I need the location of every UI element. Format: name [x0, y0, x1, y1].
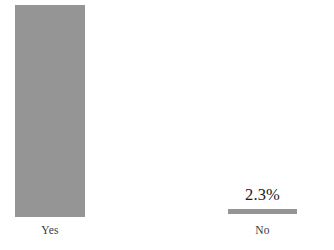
plot-area: 97.7% Yes 2.3% No — [0, 0, 334, 250]
bar-group-no: 2.3% No — [228, 0, 297, 214]
bar-tick-label-no: No — [255, 225, 269, 237]
bar-chart: 97.7% Yes 2.3% No — [0, 0, 334, 250]
bar-group-yes: 97.7% Yes — [15, 0, 85, 217]
bar-value-label-no: 2.3% — [245, 187, 280, 204]
bar-no[interactable] — [228, 209, 297, 214]
bar-tick-label-yes: Yes — [41, 225, 58, 237]
bar-yes[interactable] — [15, 5, 85, 217]
